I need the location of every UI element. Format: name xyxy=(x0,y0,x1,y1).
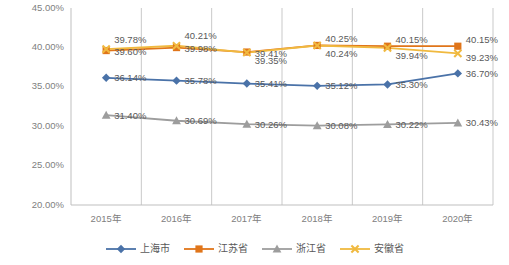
data-label: 39.78% xyxy=(114,34,147,45)
data-label: 40.24% xyxy=(325,48,358,59)
data-label: 30.43% xyxy=(466,117,499,128)
legend-label: 上海市 xyxy=(140,240,170,255)
data-point-marker-diamond xyxy=(383,80,391,88)
data-label: 30.08% xyxy=(325,120,358,131)
data-point-marker-diamond xyxy=(243,79,251,87)
data-label: 36.14% xyxy=(114,72,147,83)
x-axis-tick-label: 2017年 xyxy=(231,213,262,224)
data-label: 36.70% xyxy=(466,68,499,79)
data-label: 39.60% xyxy=(114,46,147,57)
data-label: 35.12% xyxy=(325,80,358,91)
legend-marker-square-icon xyxy=(184,241,214,253)
legend-item-安徽省[interactable]: 安徽省 xyxy=(340,240,404,255)
data-label: 39.98% xyxy=(185,43,218,54)
data-point-marker-diamond xyxy=(116,245,124,253)
data-point-marker-diamond xyxy=(172,76,180,84)
data-point-marker-square xyxy=(454,43,461,50)
legend-label: 浙江省 xyxy=(296,240,326,255)
legend-label: 安徽省 xyxy=(374,240,404,255)
legend-marker-triangle-icon xyxy=(262,241,292,253)
x-axis-tick-label: 2020年 xyxy=(442,213,473,224)
data-label: 40.15% xyxy=(466,34,499,45)
data-label: 35.78% xyxy=(185,75,218,86)
y-axis-tick-label: 20.00% xyxy=(32,199,65,210)
y-axis-tick-label: 45.00% xyxy=(32,2,65,13)
data-label: 30.69% xyxy=(185,115,218,126)
y-axis-tick-label: 40.00% xyxy=(32,41,65,52)
x-axis-tick-label: 2019年 xyxy=(372,213,403,224)
data-label: 30.22% xyxy=(396,119,429,130)
chart-plot-area: 45.00%40.00%35.00%30.00%25.00%20.00%2015… xyxy=(0,0,509,265)
legend-marker-diamond-icon xyxy=(106,241,136,253)
data-label: 31.40% xyxy=(114,110,147,121)
data-label: 40.21% xyxy=(185,30,218,41)
data-label: 30.26% xyxy=(255,119,288,130)
data-label: 40.15% xyxy=(396,34,429,45)
y-axis-tick-label: 35.00% xyxy=(32,80,65,91)
data-point-marker-diamond xyxy=(313,82,321,90)
line-chart: 45.00%40.00%35.00%30.00%25.00%20.00%2015… xyxy=(0,0,509,265)
data-label: 39.23% xyxy=(466,52,499,63)
y-axis-tick-label: 30.00% xyxy=(32,120,65,131)
data-label: 39.94% xyxy=(396,50,429,61)
y-axis-tick-label: 25.00% xyxy=(32,159,65,170)
data-point-marker-square xyxy=(195,245,202,252)
legend-item-浙江省[interactable]: 浙江省 xyxy=(262,240,326,255)
data-point-marker-diamond xyxy=(102,74,110,82)
legend-item-上海市[interactable]: 上海市 xyxy=(106,240,170,255)
data-label: 35.30% xyxy=(396,79,429,90)
data-label: 35.41% xyxy=(255,78,288,89)
data-label: 39.35% xyxy=(255,55,288,66)
data-point-marker-diamond xyxy=(454,69,462,77)
chart-legend: 上海市江苏省浙江省安徽省 xyxy=(0,236,509,258)
data-label: 40.25% xyxy=(325,33,358,44)
legend-marker-cross-icon xyxy=(340,241,370,253)
legend-label: 江苏省 xyxy=(218,240,248,255)
x-axis-tick-label: 2018年 xyxy=(302,213,333,224)
legend-item-江苏省[interactable]: 江苏省 xyxy=(184,240,248,255)
x-axis-tick-label: 2016年 xyxy=(161,213,192,224)
x-axis-tick-label: 2015年 xyxy=(91,213,122,224)
